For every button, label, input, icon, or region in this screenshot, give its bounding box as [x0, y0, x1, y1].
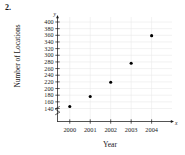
y-tick-label: 320 — [44, 46, 53, 52]
x-tick-label: 2001 — [84, 126, 97, 133]
x-axis-letter: x — [174, 120, 178, 126]
vertical-gridlines — [70, 17, 152, 122]
y-tick-label: 240 — [44, 72, 53, 78]
x-tick-label: 2000 — [63, 126, 76, 133]
x-tick-label: 2004 — [145, 126, 158, 133]
y-tick-label: 300 — [44, 52, 53, 58]
y-tick-label: 280 — [44, 59, 53, 65]
x-tick-label: 2002 — [104, 126, 117, 133]
y-tick-label: 160 — [44, 99, 53, 105]
y-tick-label: 260 — [44, 66, 53, 72]
data-point — [130, 62, 133, 65]
y-tick-label: 220 — [44, 79, 53, 85]
y-tick-label: 400 — [44, 19, 53, 25]
data-point — [109, 81, 112, 84]
x-tick-label: 2003 — [125, 126, 138, 133]
data-point — [89, 95, 92, 98]
x-axis-arrow-icon — [171, 120, 174, 123]
data-point — [150, 34, 153, 37]
y-axis-break-icon — [55, 106, 60, 114]
figure-container: 2. Number of Locations Year 140160180200… — [0, 0, 185, 155]
scatter-plot: 1401601802002202402602803003203403603804… — [0, 0, 185, 155]
y-tick-label: 380 — [44, 26, 53, 32]
y-tick-label: 140 — [44, 106, 53, 112]
y-tick-label: 180 — [44, 92, 53, 98]
y-tick-label: 340 — [44, 39, 53, 45]
y-axis-letter: y — [53, 11, 57, 17]
y-tick-label: 360 — [44, 32, 53, 38]
y-tick-label: 200 — [44, 86, 53, 92]
horizontal-gridlines — [58, 22, 173, 109]
data-point — [68, 105, 71, 108]
y-axis-arrow-icon — [56, 15, 59, 18]
